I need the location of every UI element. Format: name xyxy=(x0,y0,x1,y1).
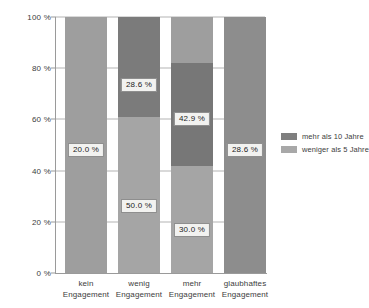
value-label-mehr-engagement-weniger: 30.0 % xyxy=(174,223,210,237)
value-label-glaubhaftes-engagement-mehr: 28.6 % xyxy=(227,143,263,157)
x-axis-label-glaubhaftes-engagement: glaubhaftes Engagement xyxy=(208,279,282,300)
value-label-kein-engagement-weniger: 20.0 % xyxy=(68,143,104,157)
legend-swatch-icon xyxy=(281,133,297,140)
legend-item-mehr-als-10-jahre[interactable]: mehr als 10 Jahre xyxy=(281,132,368,141)
x-axis-line xyxy=(55,273,267,274)
value-label-mehr-engagement-mehr: 42.9 % xyxy=(174,112,210,126)
bar-segment-rest[interactable] xyxy=(171,17,213,63)
x-label-line-1: glaubhaftes xyxy=(208,279,282,290)
legend: mehr als 10 Jahre weniger als 5 Jahre xyxy=(281,132,368,158)
bar-segment-mehr-als-10-jahre[interactable] xyxy=(118,17,160,117)
bar-wenig-engagement[interactable] xyxy=(118,17,160,273)
y-tick-label-20: 20 % xyxy=(0,217,56,226)
legend-swatch-icon xyxy=(281,146,297,153)
plot-area: 20.0 % 28.6 % 50.0 % 42.9 % 30.0 % 28.6 … xyxy=(56,17,265,273)
value-label-wenig-engagement-mehr: 28.6 % xyxy=(121,78,157,92)
y-tick-label-60: 60 % xyxy=(0,115,56,124)
value-label-wenig-engagement-weniger: 50.0 % xyxy=(121,199,157,213)
bar-segment-weniger-als-5-jahre[interactable] xyxy=(118,117,160,273)
bar-segment-weniger-als-5-jahre[interactable] xyxy=(171,166,213,274)
y-tick-label-0: 0 % xyxy=(0,269,56,278)
y-tick-label-100: 100 % xyxy=(0,13,56,22)
y-tick-label-80: 80 % xyxy=(0,64,56,73)
y-tick-label-40: 40 % xyxy=(0,166,56,175)
legend-label: mehr als 10 Jahre xyxy=(302,132,364,141)
x-label-line-2: Engagement xyxy=(208,290,282,301)
legend-label: weniger als 5 Jahre xyxy=(302,145,369,154)
legend-item-weniger-als-5-jahre[interactable]: weniger als 5 Jahre xyxy=(281,145,368,154)
